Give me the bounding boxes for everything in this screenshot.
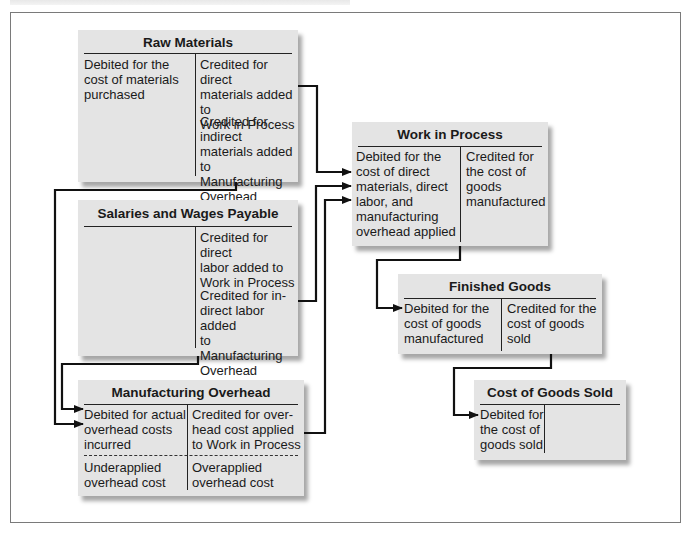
t-account-divider bbox=[544, 405, 545, 453]
balance-dashed-rule bbox=[84, 455, 298, 456]
debit-text: Debited for the cost of materials purcha… bbox=[84, 57, 192, 102]
t-account-divider bbox=[501, 299, 502, 351]
account-title: Salaries and Wages Payable bbox=[78, 200, 298, 225]
figure-caption-strip bbox=[10, 0, 350, 5]
debit-text: Debited for the cost of direct materials… bbox=[356, 149, 460, 239]
debit-text: Debited for the cost of goods manufactur… bbox=[404, 301, 500, 346]
account-title: Work in Process bbox=[352, 122, 548, 146]
credit-text-indirect-labor: Credited for in- direct labor added to M… bbox=[200, 288, 296, 378]
credit-text: Credited for the cost of goods sold bbox=[507, 301, 601, 346]
t-account-top-rule bbox=[84, 53, 292, 54]
t-account-divider bbox=[195, 227, 196, 348]
account-title: Manufacturing Overhead bbox=[78, 380, 304, 404]
account-cost-of-goods-sold: Cost of Goods Sold Debited for the cost … bbox=[474, 380, 626, 460]
debit-text: Debited for actual overhead costs incurr… bbox=[84, 407, 186, 452]
debit-text: Debited for the cost of goods sold bbox=[480, 407, 544, 452]
t-account-divider bbox=[187, 405, 188, 490]
account-title: Finished Goods bbox=[398, 274, 602, 298]
underapplied-text: Underapplied overhead cost bbox=[84, 460, 186, 490]
account-raw-materials: Raw Materials Debited for the cost of ma… bbox=[78, 30, 298, 182]
account-title: Cost of Goods Sold bbox=[474, 380, 626, 404]
overapplied-text: Overapplied overhead cost bbox=[192, 460, 302, 490]
account-work-in-process: Work in Process Debited for the cost of … bbox=[352, 122, 548, 246]
t-account-top-rule bbox=[84, 226, 292, 227]
t-account-top-rule bbox=[84, 404, 298, 405]
account-manufacturing-overhead: Manufacturing Overhead Debited for actua… bbox=[78, 380, 304, 496]
t-account-top-rule bbox=[480, 404, 620, 405]
credit-text-direct-labor: Credited for direct labor added to Work … bbox=[200, 230, 296, 290]
t-account-top-rule bbox=[404, 298, 596, 299]
t-account-divider bbox=[460, 147, 461, 242]
credit-text: Credited for the cost of goods manufactu… bbox=[466, 149, 546, 209]
t-account-top-rule bbox=[358, 146, 542, 147]
t-account-divider bbox=[195, 54, 196, 176]
credit-text-indirect-materials: Credited for indirect materials added to… bbox=[200, 114, 296, 204]
account-finished-goods: Finished Goods Debited for the cost of g… bbox=[398, 274, 602, 354]
credit-text: Credited for over- head cost applied to … bbox=[192, 407, 302, 452]
account-title: Raw Materials bbox=[78, 30, 298, 54]
account-salaries-wages-payable: Salaries and Wages Payable Credited for … bbox=[78, 200, 298, 356]
